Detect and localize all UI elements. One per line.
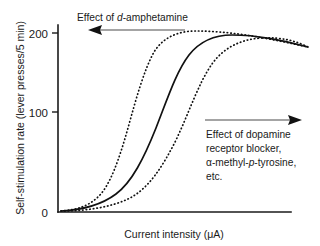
blocker-annotation-line-4: etc. [206, 171, 222, 182]
y-tick-label-100: 100 [29, 107, 48, 119]
x-axis-title: Current intensity (μA) [124, 228, 223, 240]
y-tick-label-0: 0 [42, 207, 48, 219]
blocker-arrow-head [288, 115, 302, 125]
y-axis-title: Self-stimulation rate (lever presses/5 m… [14, 21, 26, 215]
amphetamine-text-prefix: Effect of [77, 12, 117, 23]
y-tick-label-200: 200 [29, 28, 48, 40]
blocker-annotation-line-3: α-methyl-p-tyrosine, [206, 157, 296, 168]
amphetamine-annotation-text: Effect of d-amphetamine [77, 12, 188, 23]
blocker-annotation-line-2: receptor blocker, [206, 143, 281, 154]
chart-figure: 200 100 0 Effect of d-amphetamine Effect… [0, 0, 320, 246]
self-stimulation-rate-chart: 200 100 0 Effect of d-amphetamine Effect… [0, 0, 320, 246]
amphetamine-text-suffix: -amphetamine [123, 12, 188, 23]
curve-dopamine-blocker [61, 38, 308, 211]
blocker-annotation-line-1: Effect of dopamine [206, 129, 291, 140]
alpha-methyl-suffix: -tyrosine, [254, 157, 296, 168]
amphetamine-arrow-head [88, 25, 102, 35]
curve-control [61, 35, 308, 211]
alpha-methyl-prefix: α-methyl- [206, 157, 249, 168]
